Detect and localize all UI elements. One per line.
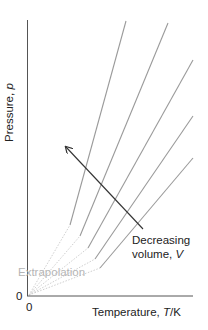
chart-canvas bbox=[0, 0, 208, 330]
y-axis-label-text: Pressure, bbox=[3, 90, 15, 142]
x-tick-zero: 0 bbox=[26, 300, 32, 314]
extrapolation-line-1 bbox=[29, 225, 70, 295]
isochore-lines bbox=[70, 21, 193, 268]
extrapolation-lines bbox=[29, 225, 100, 295]
decreasing-volume-label: Decreasing volume, V bbox=[132, 233, 190, 261]
y-tick-zero: 0 bbox=[16, 289, 22, 303]
y-axis-label: Pressure, p bbox=[2, 83, 16, 142]
annotation-text: volume, bbox=[132, 248, 175, 260]
x-axis-label: Temperature, T/K bbox=[92, 305, 181, 319]
y-axis-label-variable: p bbox=[3, 83, 15, 89]
annotation-line-2: volume, V bbox=[132, 247, 190, 261]
x-axis-label-variable: T bbox=[163, 306, 170, 318]
extrapolation-label: Extrapolation bbox=[18, 265, 85, 279]
x-axis-label-unit: /K bbox=[170, 306, 181, 318]
annotation-line-1: Decreasing bbox=[132, 233, 190, 247]
x-axis-label-text: Temperature, bbox=[92, 306, 163, 318]
annotation-variable: V bbox=[175, 248, 183, 260]
decreasing-volume-arrow bbox=[66, 147, 143, 229]
